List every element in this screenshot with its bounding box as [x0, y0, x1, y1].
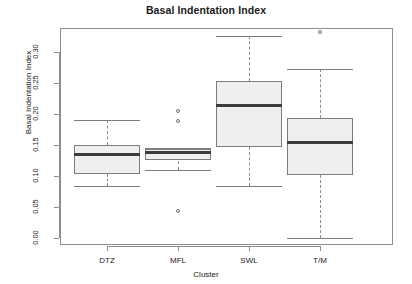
boxplot-box-t-m: [0, 0, 412, 284]
outlier-point: [318, 30, 322, 34]
boxplot-figure: Basal Indentation Index Basal Indentatio…: [0, 0, 412, 284]
whisker-upper: [320, 69, 321, 118]
iqr-box: [287, 118, 353, 176]
x-axis-title: Cluster: [0, 270, 412, 279]
median-line: [287, 141, 353, 144]
boxplot-series: [0, 0, 412, 284]
whisker-lower: [320, 175, 321, 238]
cap-lower: [287, 238, 353, 239]
cap-upper: [287, 69, 353, 70]
